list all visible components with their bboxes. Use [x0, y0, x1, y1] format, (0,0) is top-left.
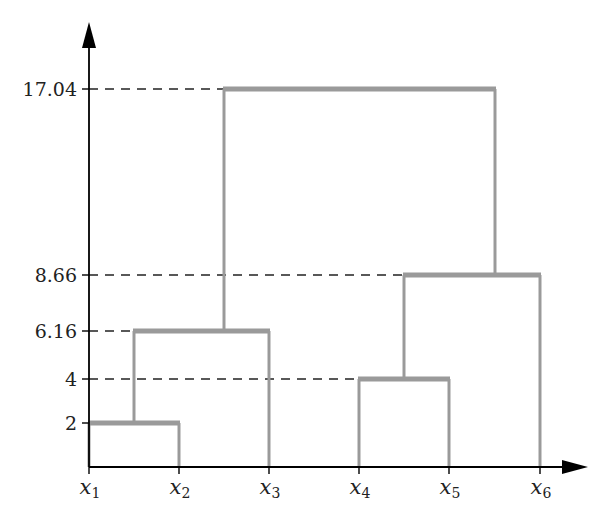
leaf-labels: x1 x2 x3 x4 x5 x6 — [80, 475, 552, 501]
leaf-label-x3: x3 — [260, 475, 281, 501]
y-tick-label: 17.04 — [23, 78, 77, 100]
merge-x45-x6 — [403, 275, 541, 467]
merge-root — [223, 89, 496, 331]
leaf-label-x4: x4 — [350, 475, 371, 501]
merge-x1-x2 — [88, 423, 180, 467]
x-axis-arrow-icon — [562, 460, 588, 474]
leaf-label-x6: x6 — [531, 475, 552, 501]
dendrogram-branches — [88, 89, 541, 467]
guide-lines — [89, 89, 404, 379]
y-tick-labels: 17.04 8.66 6.16 4 2 — [23, 78, 77, 434]
merge-x4-x5 — [358, 379, 450, 467]
merge-x12-x3 — [133, 331, 270, 467]
dendrogram-chart: 17.04 8.66 6.16 4 2 x1 x2 x3 x4 x5 x6 — [0, 0, 609, 519]
leaf-label-x2: x2 — [170, 475, 191, 501]
x-ticks — [89, 467, 540, 474]
leaf-label-x1: x1 — [80, 475, 101, 501]
y-axis-arrow-icon — [82, 22, 96, 48]
leaf-label-x5: x5 — [440, 475, 461, 501]
y-tick-label: 2 — [65, 412, 77, 434]
y-ticks — [82, 89, 89, 423]
y-tick-label: 8.66 — [35, 264, 77, 286]
y-tick-label: 4 — [65, 368, 77, 390]
y-tick-label: 6.16 — [35, 320, 77, 342]
